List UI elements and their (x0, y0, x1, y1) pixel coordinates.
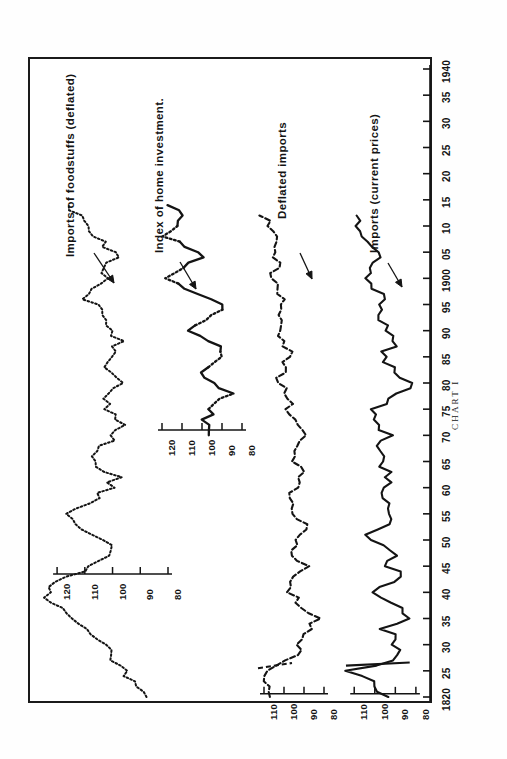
imports-current-scale-tick-80: 80 (420, 709, 431, 720)
x-tick-65: 65 (441, 458, 452, 470)
deflated-imports-scale-tick-100: 100 (288, 703, 299, 719)
x-tick-90: 90 (441, 327, 452, 339)
foodstuffs-scale-tick-100: 100 (117, 584, 128, 600)
x-tick-45: 45 (441, 563, 452, 575)
x-tick-1900: 1900 (441, 269, 452, 292)
series-label-deflated-imports: Deflated imports (276, 122, 288, 219)
value-axes-group (53, 423, 420, 694)
x-tick-1940: 1940 (441, 60, 452, 83)
home-investment-scale-tick-100: 100 (206, 440, 217, 456)
imports-current-scale-tick-110: 110 (358, 704, 369, 720)
x-tick-70: 70 (441, 432, 452, 444)
x-axis-group (423, 65, 430, 701)
foodstuffs-scale-tick-120: 120 (61, 584, 72, 600)
home-investment-scale-tick-120: 120 (166, 440, 177, 456)
figure-page: Imports of foodstuffs (deflated) Index o… (0, 0, 507, 759)
series-label-foodstuffs: Imports of foodstuffs (deflated) (64, 74, 76, 257)
deflated-imports-scale-tick-90: 90 (308, 709, 319, 720)
foodstuffs-scale-tick-80: 80 (172, 589, 183, 600)
chart-plot-area: Imports of foodstuffs (deflated) Index o… (28, 57, 432, 703)
x-tick-85: 85 (441, 353, 452, 365)
imports-current-scale-tick-100: 100 (379, 703, 390, 719)
x-tick-40: 40 (441, 589, 452, 601)
series-deflated-imports (258, 216, 321, 698)
x-tick-05: 05 (441, 249, 452, 261)
series-label-imports-current: Imports (current prices) (368, 114, 380, 253)
series-label-home-investment: Index of home investment. (153, 98, 165, 253)
x-tick-20: 20 (441, 170, 452, 182)
home-investment-scale-tick-80: 80 (246, 445, 257, 456)
home-investment-scale-tick-110: 110 (186, 440, 197, 456)
x-tick-50: 50 (441, 536, 452, 548)
deflated-imports-scale-tick-110: 110 (268, 704, 279, 720)
x-tick-30: 30 (441, 118, 452, 130)
x-tick-25: 25 (441, 667, 452, 679)
imports-current-scale-tick-90: 90 (399, 709, 410, 720)
x-tick-10: 10 (441, 222, 452, 234)
home-investment-scale-tick-90: 90 (226, 445, 237, 456)
foodstuffs-scale-tick-90: 90 (144, 589, 155, 600)
x-tick-15: 15 (441, 196, 452, 208)
x-tick-95: 95 (441, 301, 452, 313)
deflated-imports-scale-tick-80: 80 (328, 709, 339, 720)
x-tick-30: 30 (441, 641, 452, 653)
x-tick-35: 35 (441, 92, 452, 104)
annotation-leader-lines (94, 253, 402, 289)
x-tick-25: 25 (441, 144, 452, 156)
x-tick-60: 60 (441, 484, 452, 496)
series-foodstuffs (44, 205, 146, 697)
x-tick-1820: 1820 (441, 688, 452, 711)
x-tick-35: 35 (441, 615, 452, 627)
figure-caption: CHART I (450, 380, 460, 430)
foodstuffs-scale-tick-110: 110 (89, 584, 100, 600)
x-tick-55: 55 (441, 510, 452, 522)
series-home-investment (162, 205, 233, 435)
